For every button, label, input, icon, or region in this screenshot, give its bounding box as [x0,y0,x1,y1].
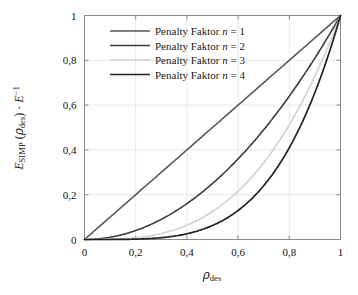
y-axis-title-e: E [12,162,26,169]
y-tick-label: 0,2 [0,189,77,201]
legend-swatches [110,31,150,75]
legend-label-prefix: Penalty Faktor [155,69,222,81]
legend-label-prefix: Penalty Faktor [155,25,222,37]
legend-label-value: 4 [239,69,245,81]
legend-entry-4: Penalty Faktor n = 4 [155,69,245,81]
legend-label-eq: = [228,25,240,37]
x-axis-title-sub: des [210,273,222,283]
y-tick-label: 0 [0,234,77,246]
legend-label-eq: = [228,69,240,81]
x-tick-label: 1 [338,246,344,258]
y-axis-title-rho: ρ [12,128,26,135]
legend-label-eq: = [228,54,240,66]
legend-label-value: 3 [239,54,245,66]
legend-label-prefix: Penalty Faktor [155,40,222,52]
legend-label-value: 2 [239,40,245,52]
y-tick-label: 0,8 [0,54,77,66]
x-tick-label: 0,4 [180,246,194,258]
chart-figure: 00,20,40,60,81 00,20,40,60,81 Penalty Fa… [0,0,358,295]
y-axis-title: ESIMP (ρdes) · E−1 [11,86,27,170]
legend-entry-2: Penalty Faktor n = 2 [155,40,245,52]
legend-label-prefix: Penalty Faktor [155,54,222,66]
y-tick-label: 1 [0,10,77,22]
y-axis-title-rho-sub: des [17,117,27,129]
y-axis-title-open: ( [12,135,26,142]
x-axis-title: ρdes [203,268,222,283]
x-tick-label: 0 [82,246,88,258]
x-tick-label: 0,6 [231,246,245,258]
y-axis-title-e2-sup: −1 [11,86,21,95]
legend-entry-3: Penalty Faktor n = 3 [155,54,245,66]
legend-label-eq: = [228,40,240,52]
legend-label-value: 1 [239,25,245,37]
x-axis-title-rho: ρ [203,268,210,282]
y-axis-title-e-sub: SIMP [17,142,27,162]
legend-entry-1: Penalty Faktor n = 1 [155,25,245,37]
y-axis-title-e2: E [12,95,26,102]
x-tick-label: 0,8 [282,246,296,258]
x-tick-label: 0,2 [129,246,143,258]
y-axis-title-close: ) · [12,103,26,117]
